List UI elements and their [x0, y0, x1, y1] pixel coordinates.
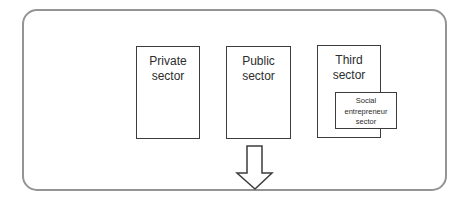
figure-canvas: Private sector Public sector Third secto… — [0, 0, 469, 202]
public-sector-label: Public sector — [227, 47, 290, 84]
third-sector-label: Third sector — [318, 46, 380, 83]
down-arrow-icon — [232, 143, 278, 193]
private-sector-label: Private sector — [137, 47, 199, 84]
social-entrepreneur-sector-label: Social entrepreneur sector — [336, 93, 396, 128]
box-social-entrepreneur-sector: Social entrepreneur sector — [335, 92, 397, 129]
box-private-sector: Private sector — [136, 46, 200, 139]
diagram-boundary: Private sector Public sector Third secto… — [22, 9, 447, 191]
box-public-sector: Public sector — [226, 46, 291, 139]
